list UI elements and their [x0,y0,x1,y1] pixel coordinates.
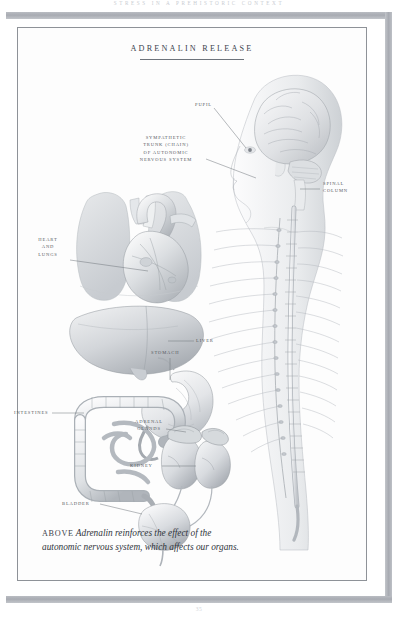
caption-lead-in: ABOVE [42,529,74,538]
book-page: STRESS IN A PREHISTORIC CONTEXT 35 ADREN… [0,0,398,620]
page-rule-top [6,12,392,19]
stomach-illustration [139,358,213,460]
plate-title-rule [140,59,244,60]
label-adrenal-glands: ADRENAL GLANDS [128,418,170,433]
kidneys-and-adrenals-illustration [160,426,230,526]
intestines-illustration [75,397,180,516]
label-spinal-column: SPINAL COLUMN [323,180,367,195]
figure-silhouette [231,75,342,550]
anatomical-illustration [18,28,368,582]
label-bladder: BLADDER [62,500,102,507]
figure-caption: ABOVE Adrenalin reinforces the effect of… [42,526,250,555]
illustration-plate: ADRENALIN RELEASE [17,27,367,581]
leader-lines [18,28,368,582]
label-liver: LIVER [196,337,236,344]
label-heart-and-lungs: HEART AND LUNGS [26,236,70,258]
running-head: STRESS IN A PREHISTORIC CONTEXT [0,0,398,6]
label-pupil: PUPIL [164,101,212,108]
label-sympathetic-trunk: SYMPATHETIC TRUNK (CHAIN) OF AUTONOMIC N… [126,134,206,164]
spinal-column-illustration [209,208,343,540]
liver-illustration [70,306,204,380]
heart-and-lungs-illustration [77,192,201,303]
label-kidney: KIDNEY [130,462,168,469]
plate-title: ADRENALIN RELEASE [18,44,366,53]
brain-illustration [255,89,331,210]
label-stomach: STOMACH [151,349,199,356]
folio-page-number: 35 [0,606,398,612]
label-intestines: INTESTINES [14,409,56,416]
page-rule-bottom [6,596,392,603]
gutter-band [385,12,392,603]
